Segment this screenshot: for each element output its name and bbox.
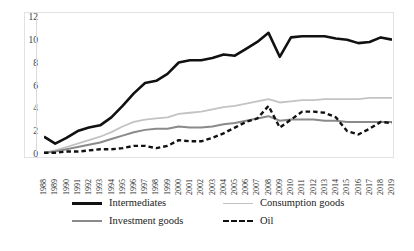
series-canvas [44,18,392,155]
legend-swatch-intermediates [72,202,102,205]
chart-legend: Intermediates Consumption goods Investme… [72,198,362,226]
legend-label-oil: Oil [260,216,273,227]
legend-label-investment-goods: Investment goods [109,216,183,227]
y-axis-tick: 12 [16,13,38,23]
legend-item-intermediates: Intermediates [72,198,201,209]
x-axis-tick: 1999 [164,179,172,195]
x-axis: 1988198919901991199219931994199519961997… [44,157,392,195]
y-axis-tick: 8 [16,59,38,69]
y-axis-tick: 2 [16,127,38,137]
x-axis-tick: 2003 [209,179,217,195]
x-axis-tick: 1997 [141,179,149,195]
legend-swatch-oil [223,220,253,222]
x-axis-tick: 2013 [321,179,329,195]
x-axis-tick: 1993 [96,179,104,195]
legend-label-consumption-goods: Consumption goods [260,198,344,209]
x-axis-tick: 1994 [108,179,116,195]
y-axis-tick: 6 [16,82,38,92]
x-axis-tick: 2017 [366,179,374,195]
series-line-oil [44,106,392,153]
x-axis-tick: 1990 [63,179,71,195]
y-axis-tick: 4 [16,105,38,115]
x-axis-tick: 1995 [119,179,127,195]
y-axis-tick: 0 [16,150,38,160]
line-chart: 024681012 198819891990199119921993199419… [0,0,414,251]
x-axis-tick: 2014 [332,179,340,195]
x-axis-tick: 2016 [355,179,363,195]
x-axis-tick: 2010 [287,179,295,195]
legend-item-investment-goods: Investment goods [72,216,201,227]
legend-swatch-consumption-goods [223,203,253,204]
y-axis-tick: 10 [16,36,38,46]
x-axis-tick: 2008 [265,179,273,195]
legend-item-oil: Oil [223,216,362,227]
x-axis-tick: 1991 [74,179,82,195]
x-axis-tick: 2001 [186,179,194,195]
legend-label-intermediates: Intermediates [109,198,166,209]
y-axis: 024681012 [8,18,38,155]
x-axis-tick: 2000 [175,179,183,195]
x-axis-tick: 1996 [130,179,138,195]
x-axis-tick: 1992 [85,179,93,195]
x-axis-tick: 2005 [231,179,239,195]
x-axis-tick: 2018 [377,179,385,195]
x-axis-tick: 2007 [253,179,261,195]
x-axis-tick: 2019 [388,179,396,195]
legend-swatch-investment-goods [72,220,102,222]
x-axis-tick: 1998 [152,179,160,195]
x-axis-tick: 2015 [343,179,351,195]
x-axis-tick: 2011 [298,179,306,195]
x-axis-tick: 2004 [220,179,228,195]
x-axis-tick: 1989 [51,179,59,195]
x-axis-tick: 2002 [197,179,205,195]
x-axis-tick: 2006 [242,179,250,195]
legend-item-consumption-goods: Consumption goods [223,198,362,209]
x-axis-tick: 2012 [310,179,318,195]
x-axis-tick: 2009 [276,179,284,195]
series-line-intermediates [44,33,392,144]
x-axis-tick: 1988 [40,179,48,195]
plot-area [44,18,392,155]
series-line-investment-goods [44,116,392,153]
y-axis-line [36,18,37,156]
